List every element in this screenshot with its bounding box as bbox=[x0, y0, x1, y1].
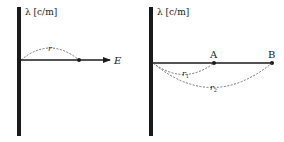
charge-density-label: λ [c/m] bbox=[25, 7, 57, 17]
r1-label: r1 bbox=[182, 69, 189, 79]
line-charge-bar bbox=[17, 7, 21, 136]
field-label: E bbox=[113, 55, 122, 66]
charge-density-label: λ [c/m] bbox=[157, 7, 189, 17]
diagram-canvas: λ [c/m] r E λ [c/m] A B r1 r2 bbox=[0, 0, 284, 142]
field-point bbox=[77, 58, 81, 62]
left-panel: λ [c/m] r E bbox=[17, 7, 122, 136]
r2-label: r2 bbox=[210, 83, 217, 93]
right-panel: λ [c/m] A B r1 r2 bbox=[149, 7, 275, 136]
line-charge-bar bbox=[149, 7, 153, 136]
point-b-label: B bbox=[268, 49, 275, 60]
point-a-label: A bbox=[209, 49, 218, 60]
distance-label: r bbox=[48, 44, 53, 53]
